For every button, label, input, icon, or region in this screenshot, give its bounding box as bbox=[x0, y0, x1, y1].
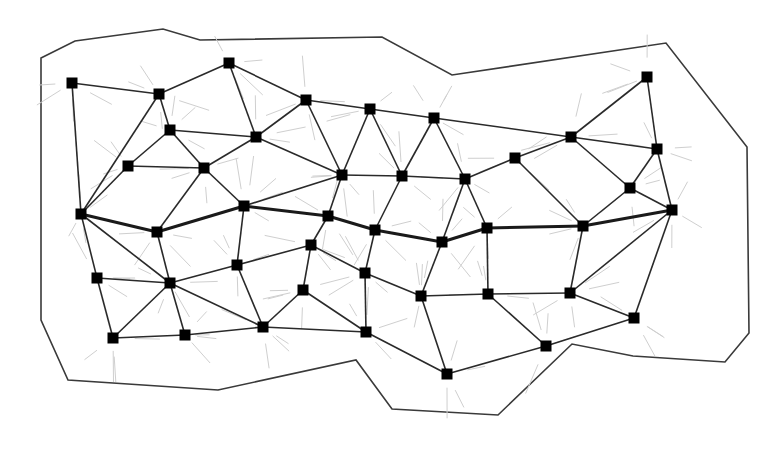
node-n24 bbox=[370, 225, 381, 236]
node-n1 bbox=[67, 78, 78, 89]
node-n4 bbox=[165, 125, 176, 136]
node-n10 bbox=[429, 113, 440, 124]
footer-strip bbox=[0, 440, 300, 450]
node-n21 bbox=[152, 227, 163, 238]
node-n12 bbox=[397, 171, 408, 182]
node-n8 bbox=[301, 95, 312, 106]
edge-n26-n35 bbox=[487, 228, 488, 294]
node-n43 bbox=[541, 341, 552, 352]
node-n27 bbox=[578, 221, 589, 232]
node-n14 bbox=[510, 153, 521, 164]
node-n37 bbox=[629, 313, 640, 324]
node-n35 bbox=[483, 289, 494, 300]
node-n22 bbox=[239, 201, 250, 212]
node-n16 bbox=[642, 72, 653, 83]
node-n32 bbox=[360, 268, 371, 279]
node-n41 bbox=[361, 327, 372, 338]
mesh-diagram bbox=[0, 0, 770, 450]
node-n18 bbox=[625, 183, 636, 194]
node-n7 bbox=[251, 132, 262, 143]
node-n5 bbox=[123, 161, 134, 172]
node-n28 bbox=[92, 273, 103, 284]
node-n30 bbox=[232, 260, 243, 271]
node-n9 bbox=[365, 104, 376, 115]
node-n42 bbox=[442, 369, 453, 380]
edge-n32-n41 bbox=[365, 273, 366, 332]
node-n20 bbox=[76, 209, 87, 220]
node-n23 bbox=[323, 211, 334, 222]
node-n34 bbox=[416, 291, 427, 302]
node-n11 bbox=[337, 170, 348, 181]
node-n26 bbox=[482, 223, 493, 234]
node-n31 bbox=[306, 240, 317, 251]
hint-line bbox=[237, 277, 238, 297]
node-n40 bbox=[258, 322, 269, 333]
hint-line bbox=[135, 339, 160, 340]
node-n19 bbox=[667, 205, 678, 216]
node-n13 bbox=[460, 174, 471, 185]
node-n17 bbox=[652, 144, 663, 155]
node-n15 bbox=[566, 132, 577, 143]
hint-line bbox=[443, 199, 444, 221]
node-n3 bbox=[224, 58, 235, 69]
node-n25 bbox=[437, 237, 448, 248]
node-n38 bbox=[108, 333, 119, 344]
node-n6 bbox=[199, 163, 210, 174]
node-n33 bbox=[298, 285, 309, 296]
edge-n11-n12 bbox=[342, 175, 402, 176]
edge-n35-n36 bbox=[488, 293, 570, 294]
node-n39 bbox=[180, 330, 191, 341]
region-boundary bbox=[41, 29, 749, 415]
node-n36 bbox=[565, 288, 576, 299]
node-n29 bbox=[165, 278, 176, 289]
path-edge-n26-n27 bbox=[487, 226, 583, 228]
node-n2 bbox=[154, 89, 165, 100]
